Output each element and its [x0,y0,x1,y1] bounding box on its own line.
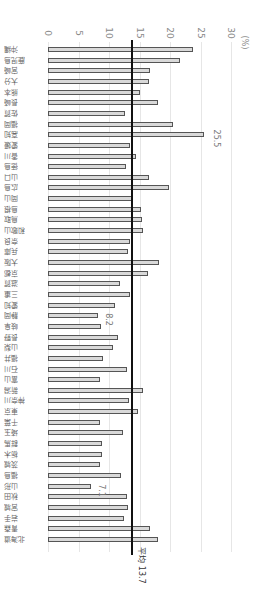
bar [48,473,121,478]
bar [48,452,102,457]
axis-tick-label: 5 [74,26,84,40]
category-label: 兵庫 [4,246,46,256]
category-label: 静岡 [4,310,46,320]
category-label: 大分 [4,76,46,86]
category-label: 岐阜 [4,321,46,331]
bar [48,122,173,127]
bar [48,505,128,510]
bar [48,47,193,52]
category-label: 福井 [4,353,46,363]
category-label: 富山 [4,374,46,384]
gridline [231,42,232,552]
category-label: 栃木 [4,449,46,459]
bar [48,90,140,95]
category-label: 新潟 [4,385,46,395]
bar [48,111,125,116]
bar [48,175,149,180]
category-label: 神奈川 [4,395,46,405]
axis-tick-label: 0 [43,26,53,40]
bar [48,164,126,169]
axis-tick-label: 15 [135,26,145,40]
category-label: 鹿児島 [4,55,46,65]
bar [48,58,180,63]
axis-tick-label: 25 [196,26,206,40]
category-label: 岩手 [4,513,46,523]
bar [48,494,127,499]
category-label: 広島 [4,182,46,192]
mean-label: 平均 13.7 [136,547,147,583]
bar [48,516,124,521]
category-label: 茨城 [4,459,46,469]
bar [48,207,141,212]
gridline [201,42,202,552]
bar [48,132,204,137]
category-label: 宮城 [4,502,46,512]
category-label: 長崎 [4,97,46,107]
bar [48,228,143,233]
bar [48,217,142,222]
bar [48,335,118,340]
category-label: 奈良 [4,236,46,246]
category-label: 千葉 [4,417,46,427]
gridline [140,42,141,552]
category-label: 埼玉 [4,427,46,437]
bar [48,345,113,350]
data-annotation: 25.5 [212,130,221,148]
bar [48,377,100,382]
category-label: 愛媛 [4,140,46,150]
category-label: 島根 [4,204,46,214]
category-label: 京都 [4,268,46,278]
bar [48,313,98,318]
gridline [170,42,171,552]
bar [48,271,148,276]
category-label: 山梨 [4,342,46,352]
category-label: 滋賀 [4,278,46,288]
bar [48,356,103,361]
bar [48,281,120,286]
bar [48,367,127,372]
bar [48,196,133,201]
bar [48,526,150,531]
axis-unit-label: (%) [240,36,249,50]
category-label: 東京 [4,406,46,416]
category-label: 秋田 [4,491,46,501]
category-label: 熊本 [4,87,46,97]
category-label: 長野 [4,332,46,342]
category-label: 福島 [4,470,46,480]
bar [48,398,129,403]
bar [48,292,130,297]
bar [48,388,143,393]
bar [48,430,123,435]
bar [48,154,136,159]
category-label: 青森 [4,523,46,533]
category-label: 鳥取 [4,214,46,224]
bar [48,303,115,308]
category-label: 香川 [4,151,46,161]
bar [48,260,159,265]
category-label: 三重 [4,289,46,299]
category-label: 山口 [4,172,46,182]
bar [48,185,169,190]
data-annotation: 7.1 [97,484,106,497]
bar [48,409,138,414]
bar [48,324,101,329]
bar [48,462,100,467]
category-label: 北海道 [4,534,46,544]
bar [48,484,91,489]
bar-chart: 051015202530(%)沖縄鹿児島宮崎大分熊本長崎佐賀福岡高知愛媛香川徳島… [0,0,262,602]
category-label: 愛知 [4,300,46,310]
bar [48,249,128,254]
bar [48,420,100,425]
bar [48,79,149,84]
axis-tick-label: 30 [226,26,236,40]
category-label: 岡山 [4,193,46,203]
bar [48,239,130,244]
category-label: 山形 [4,481,46,491]
category-label: 福岡 [4,119,46,129]
category-label: 和歌山 [4,225,46,235]
axis-tick-label: 10 [104,26,114,40]
category-label: 石川 [4,364,46,374]
data-annotation: 8.2 [104,313,113,326]
category-label: 徳島 [4,161,46,171]
bar [48,100,158,105]
